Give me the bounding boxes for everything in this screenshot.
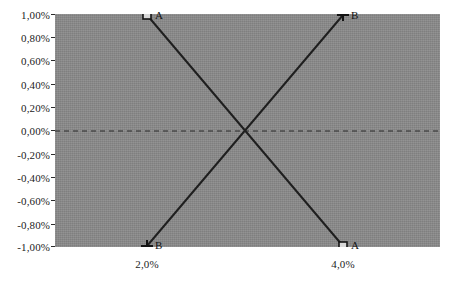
point-label-b-bottom: B (155, 240, 162, 251)
y-tick-label: 0,40% (0, 80, 50, 91)
y-tick-label: 0,20% (0, 103, 50, 114)
y-tick-label: -0,40% (0, 173, 50, 184)
point-label-b-top: B (351, 10, 358, 21)
x-tick-label: 2,0% (117, 259, 177, 270)
series-a-marker-square (339, 242, 347, 247)
y-tick-label: -1,00% (0, 242, 50, 253)
y-tick-label: -0,60% (0, 196, 50, 207)
y-tick-label: -0,20% (0, 150, 50, 161)
point-label-a-top: A (155, 10, 163, 21)
chart-root: 1,00% 0,80% 0,60% 0,40% 0,20% 0,00% -0,2… (0, 0, 453, 283)
plot-canvas (55, 14, 440, 247)
y-tick-label: 1,00% (0, 10, 50, 21)
y-tick-label: 0,60% (0, 56, 50, 67)
series-a-marker-square (143, 14, 151, 19)
plot-area (55, 14, 440, 247)
y-tick-label: 0,00% (0, 126, 50, 137)
y-tick-label: 0,80% (0, 33, 50, 44)
y-tick-label: -0,80% (0, 220, 50, 231)
point-label-a-bottom: A (351, 240, 359, 251)
x-tick-label: 4,0% (313, 259, 373, 270)
